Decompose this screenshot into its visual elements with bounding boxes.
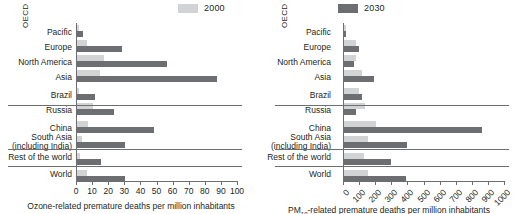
bar-2030-south-asia-including-india: [77, 142, 125, 148]
chart-panel-ozone: OECD Pacific Europe North America Asia B…: [0, 20, 259, 214]
tick-700: [456, 181, 457, 185]
tick-60: [173, 181, 174, 185]
bar-2030-europe: [344, 46, 359, 52]
axis-title-pm10-suffix: -related premature deaths per million in…: [308, 205, 490, 214]
tick-0: [76, 181, 77, 185]
bar-2030-north-america: [344, 61, 354, 67]
bar-2030-china: [344, 127, 482, 133]
axis-title-pm10-prefix: PM: [288, 205, 301, 214]
cat-label-north-america: North America: [18, 58, 72, 67]
tick-500: [424, 181, 425, 185]
chart-page: 2000 2030 OECD Pacific Europe North Amer…: [0, 0, 518, 214]
cat-label-asia: Asia: [55, 73, 72, 82]
bar-2030-north-america: [77, 61, 167, 67]
group-separator-rest-pm10: [275, 166, 509, 167]
bar-2030-russia: [77, 109, 114, 115]
bar-2030-europe: [77, 46, 122, 52]
group-separator-bric-ozone: [8, 149, 242, 150]
cat-label-europe-pm10: Europe: [304, 43, 331, 52]
legend-item-2030: 2030: [338, 4, 385, 13]
tick-1000: [504, 181, 505, 185]
group-separator-oecd-pm10: [275, 105, 509, 106]
cat-label-north-america-pm10: North America: [277, 58, 331, 67]
tick-40: [140, 181, 141, 185]
chart-panel-pm10: OECD Pacific Europe North America Asia B…: [259, 20, 518, 214]
tick-30: [124, 181, 125, 185]
cat-label-brazil: Brazil: [51, 91, 72, 100]
bar-2030-pacific: [77, 31, 83, 37]
tick-70: [189, 181, 190, 185]
tick-900: [488, 181, 489, 185]
tick-600: [440, 181, 441, 185]
bar-2030-south-asia-including-india: [344, 142, 407, 148]
tick-400: [407, 181, 408, 185]
tick-10: [92, 181, 93, 185]
cat-label-russia: Russia: [46, 106, 72, 115]
value-axis-ticks-ozone: [76, 181, 259, 185]
chart-legend: 2000 2030: [0, 0, 518, 20]
cat-label-pacific: Pacific: [47, 28, 72, 37]
legend-item-2000: 2000: [178, 4, 225, 13]
bar-2030-asia: [77, 76, 217, 82]
axis-title-pm10-sub: 10: [301, 211, 308, 214]
tick-0: [343, 181, 344, 185]
legend-swatch-2030-icon: [338, 4, 358, 13]
tick-100: [237, 181, 238, 185]
tick-80: [205, 181, 206, 185]
bar-2030-brazil: [77, 94, 95, 100]
cat-label-rest-of-world: Rest of the world: [8, 153, 72, 162]
tick-20: [108, 181, 109, 185]
tick-300: [391, 181, 392, 185]
bar-2030-rest-of-the-world: [77, 159, 101, 165]
bar-2030-china: [77, 127, 154, 133]
legend-label-2030: 2030: [364, 4, 385, 13]
tick-800: [472, 181, 473, 185]
value-axis-ticks-pm10: [343, 181, 518, 185]
group-separator-rest-ozone: [8, 166, 242, 167]
cat-label-rest-of-world-pm10: Rest of the world: [267, 153, 331, 162]
bar-2030-pacific: [344, 31, 346, 37]
legend-swatch-2000-icon: [178, 4, 198, 13]
cat-label-europe: Europe: [45, 43, 72, 52]
ticklabel-100: 100: [227, 187, 247, 196]
tick-90: [221, 181, 222, 185]
bar-2030-brazil: [344, 94, 362, 100]
cat-label-pacific-pm10: Pacific: [306, 28, 331, 37]
cat-label-asia-pm10: Asia: [314, 73, 331, 82]
axis-title-ozone: Ozone-related premature deaths per milli…: [8, 201, 254, 211]
cat-label-russia-pm10: Russia: [305, 106, 331, 115]
axis-title-pm10: PM10-related premature deaths per millio…: [263, 205, 515, 214]
cat-label-world: World: [50, 170, 72, 179]
tick-100: [359, 181, 360, 185]
tick-200: [375, 181, 376, 185]
group-separator-bric-pm10: [275, 149, 509, 150]
bar-2030-rest-of-the-world: [344, 159, 391, 165]
oecd-group-label-pm10: OECD: [281, 4, 289, 28]
group-separator-oecd-ozone: [8, 105, 242, 106]
bar-2030-russia: [344, 109, 356, 115]
oecd-group-label-ozone: OECD: [22, 4, 30, 28]
bar-2030-asia: [344, 76, 374, 82]
tick-50: [157, 181, 158, 185]
cat-label-world-pm10: World: [309, 170, 331, 179]
cat-label-brazil-pm10: Brazil: [310, 91, 331, 100]
legend-label-2000: 2000: [204, 4, 225, 13]
